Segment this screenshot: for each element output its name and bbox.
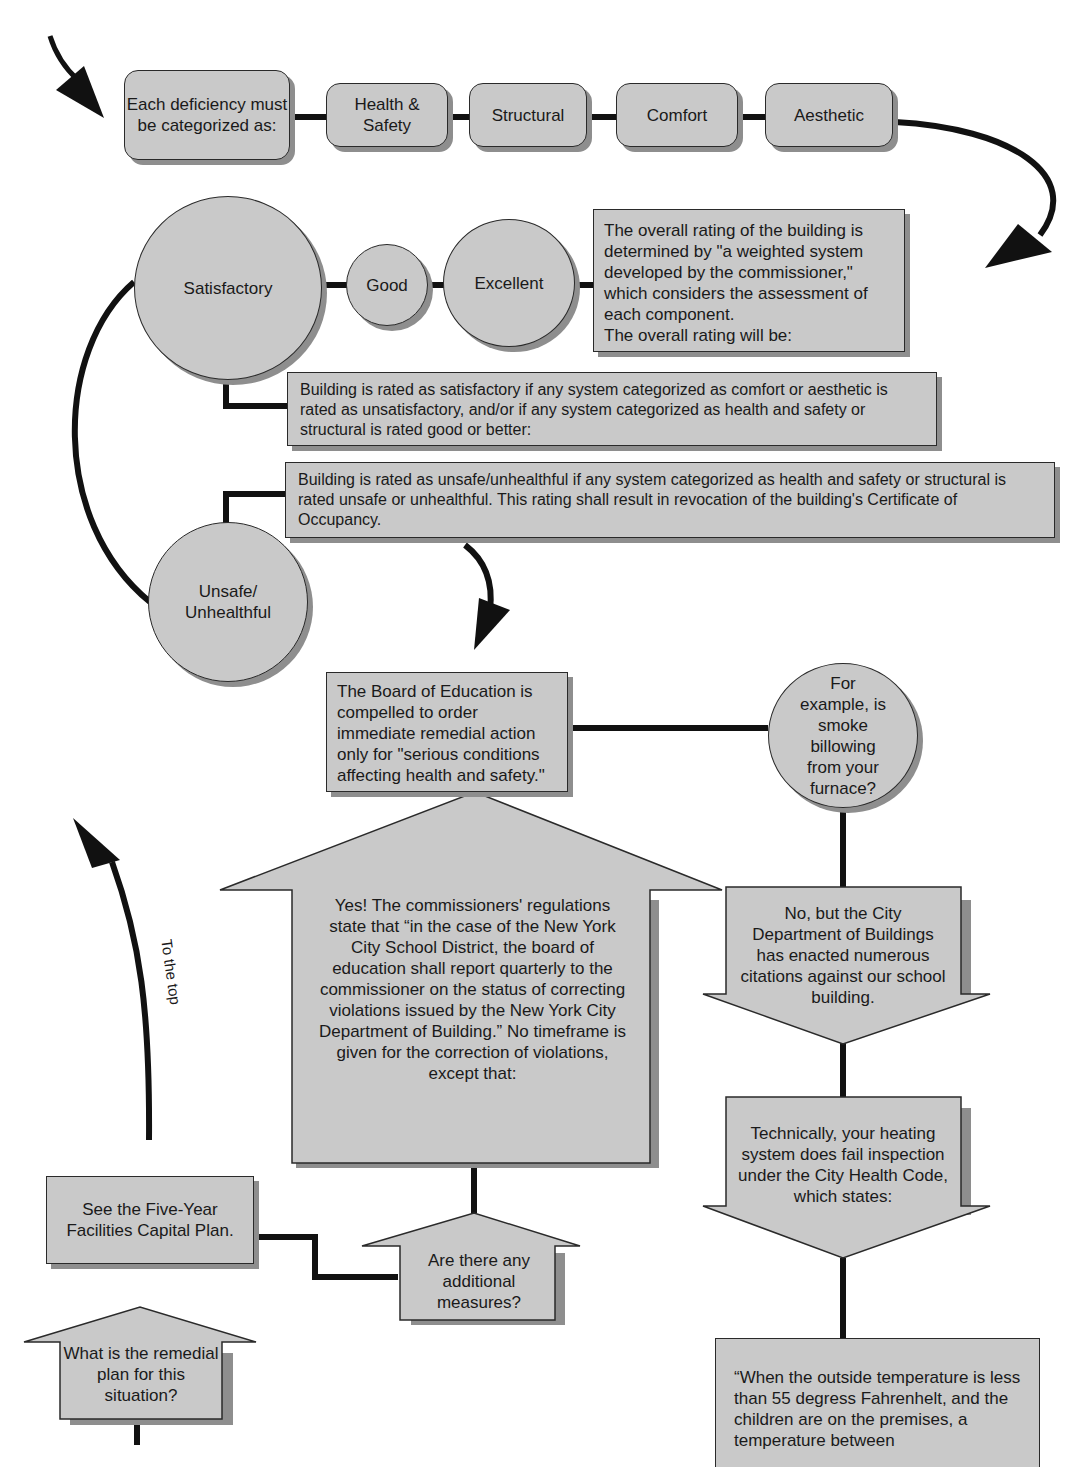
unsafe-rule-text: Building is rated as unsafe/unhealthful … <box>298 470 1042 530</box>
flowchart-canvas: Each deficiency must be categorized as: … <box>0 0 1091 1467</box>
five-year-plan-text: See the Five-Year Facilities Capital Pla… <box>60 1199 240 1241</box>
overall-rating-note: The overall rating of the building is de… <box>593 209 905 352</box>
satisfactory-rule-box: Building is rated as satisfactory if any… <box>287 372 937 446</box>
rating-good: Good <box>346 244 428 326</box>
rating-excellent: Excellent <box>443 219 575 347</box>
rating-label: Excellent <box>475 273 544 294</box>
category-label: Comfort <box>647 105 707 126</box>
to-top-arrow-icon <box>73 818 149 1140</box>
technically-text: Technically, your heating system does fa… <box>738 1123 948 1207</box>
rating-label: Unsafe/ Unhealthful <box>173 581 283 623</box>
category-health-safety: Health & Safety <box>326 83 448 147</box>
down-arrow-icon <box>465 545 510 650</box>
board-text: The Board of Education is compelled to o… <box>337 681 557 786</box>
category-label: Aesthetic <box>794 105 864 126</box>
yes-answer-text: Yes! The commissioners' regulations stat… <box>315 895 630 1084</box>
board-of-education-box: The Board of Education is compelled to o… <box>326 672 568 792</box>
remedial-plan-text: What is the remedial plan for this situa… <box>62 1343 220 1406</box>
rating-label: Satisfactory <box>184 278 273 299</box>
category-label: Structural <box>492 105 565 126</box>
category-aesthetic: Aesthetic <box>765 83 893 147</box>
overall-will-be-text: The overall rating will be: <box>604 325 792 346</box>
health-code-quote-text: “When the outside temperature is less th… <box>734 1367 1029 1451</box>
no-answer-text: No, but the City Department of Buildings… <box>738 903 948 1008</box>
rating-label: Good <box>366 275 408 296</box>
rating-unsafe-unhealthful: Unsafe/ Unhealthful <box>148 522 308 682</box>
unsafe-rule-box: Building is rated as unsafe/unhealthful … <box>285 462 1055 538</box>
categorize-intro-text: Each deficiency must be categorized as: <box>125 94 289 136</box>
rating-satisfactory: Satisfactory <box>134 196 322 380</box>
example-question-circle: For example, is smoke billowing from you… <box>768 663 918 808</box>
entry-arrow-icon <box>50 36 104 118</box>
five-year-plan-box: See the Five-Year Facilities Capital Pla… <box>46 1176 254 1264</box>
satisfactory-rule-text: Building is rated as satisfactory if any… <box>300 380 924 440</box>
health-code-quote-box: “When the outside temperature is less th… <box>715 1338 1040 1467</box>
categorize-intro-box: Each deficiency must be categorized as: <box>124 70 290 160</box>
overall-rating-text: The overall rating of the building is de… <box>604 220 894 325</box>
category-structural: Structural <box>469 83 587 147</box>
additional-measures-text: Are there any additional measures? <box>404 1250 554 1313</box>
category-comfort: Comfort <box>616 83 738 147</box>
example-question-text: For example, is smoke billowing from you… <box>795 673 891 799</box>
curve-arrow-right-icon <box>895 122 1053 268</box>
category-label: Health & Safety <box>347 94 427 136</box>
